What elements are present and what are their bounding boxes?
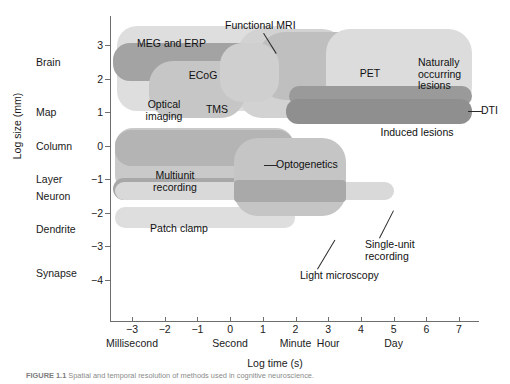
region-light-microscopy: [234, 138, 346, 216]
y-tick: [105, 213, 110, 214]
label-pet: PET: [355, 68, 385, 80]
y-tick-label: 2: [81, 74, 103, 84]
x-tick: [197, 317, 198, 322]
label-single-unit-recording: Single-unit recording: [365, 239, 445, 262]
x-tick-label: 3: [313, 324, 343, 335]
x-tick: [459, 317, 460, 322]
x-tick-label: −1: [182, 324, 212, 335]
figure-container: MEG and ERP ECoG Optical imaging TMS PET…: [0, 0, 510, 384]
y-category-label: Neuron: [36, 191, 106, 202]
x-tick-label: 2: [281, 324, 311, 335]
y-tick-label: −3: [81, 241, 103, 251]
y-axis-line: [110, 16, 111, 322]
x-tick-label: 6: [411, 324, 441, 335]
label-light-microscopy: Light microscopy: [300, 270, 410, 282]
x-tick: [165, 317, 166, 322]
x-tick-label: −2: [150, 324, 180, 335]
x-tick: [426, 317, 427, 322]
x-tick: [328, 317, 329, 322]
label-optogenetics: Optogenetics: [276, 159, 356, 171]
y-tick: [105, 246, 110, 247]
label-dti: DTI: [481, 105, 509, 117]
label-patch-clamp: Patch clamp: [141, 223, 217, 235]
figure-caption: FIGURE 1.1 Spatial and temporal resoluti…: [26, 371, 496, 380]
x-tick: [394, 317, 395, 322]
y-category-label: Dendrite: [36, 224, 106, 235]
x-unit-label: Day: [349, 338, 439, 349]
x-tick-label: 0: [215, 324, 245, 335]
region-induced-lesions: [286, 99, 472, 124]
x-tick: [296, 317, 297, 322]
label-functional-mri: Functional MRI: [225, 20, 325, 32]
x-tick: [361, 317, 362, 322]
label-multiunit-recording: Multiunit recording: [135, 170, 215, 193]
y-category-label: Column: [36, 141, 106, 152]
x-tick: [132, 317, 133, 322]
x-tick-label: 1: [248, 324, 278, 335]
caption-label: FIGURE 1.1: [26, 371, 66, 380]
x-tick-label: 4: [346, 324, 376, 335]
region-tms: [220, 43, 279, 102]
label-naturally-occurring-lesions: Naturally occurring lesions: [418, 57, 480, 92]
y-tick-label: 3: [81, 40, 103, 50]
y-tick-label: −2: [81, 208, 103, 218]
region-light-microscopy-overlap: [234, 180, 346, 202]
y-tick: [105, 45, 110, 46]
y-category-label: Map: [36, 107, 106, 118]
x-unit-label: Millisecond: [87, 338, 177, 349]
y-category-label: Synapse: [36, 268, 106, 279]
label-tms: TMS: [200, 104, 234, 116]
leader-optogenetics: [264, 165, 277, 166]
y-tick: [105, 280, 110, 281]
y-tick: [105, 79, 110, 80]
y-category-label: Layer: [36, 174, 106, 185]
x-tick-label: −3: [117, 324, 147, 335]
y-category-label: Brain: [36, 57, 106, 68]
y-axis-title: Log size (mm): [11, 61, 23, 191]
label-meg-erp: MEG and ERP: [124, 38, 219, 50]
x-tick: [263, 317, 264, 322]
x-tick: [230, 317, 231, 322]
label-ecog: ECoG: [178, 70, 228, 82]
caption-text: Spatial and temporal resolution of metho…: [68, 371, 314, 380]
leader-dti: [468, 111, 482, 112]
x-axis-title: Log time (s): [215, 357, 335, 369]
x-tick-label: 5: [379, 324, 409, 335]
label-induced-lesions: Induced lesions: [372, 127, 462, 139]
x-tick-label: 7: [444, 324, 474, 335]
label-optical-imaging: Optical imaging: [133, 99, 195, 122]
